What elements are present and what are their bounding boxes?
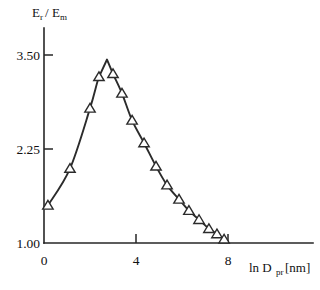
x-tick-label-4: 4 [133,253,140,268]
y-tick-label-350: 3.50 [16,48,40,63]
y-tick-label-225: 2.25 [16,142,40,157]
x-axis-title-subscript: pr [276,267,284,277]
data-point-marker [139,138,149,147]
chart-figure: 3.50 2.25 1.00 0 4 8 E r / E m ln D pr [… [0,0,320,290]
data-point-marker [162,180,172,189]
y-axis-title-numerator: E [32,5,40,20]
x-axis-title-lead: ln D [249,260,272,275]
data-point-marker [117,88,127,97]
y-axis-title-denominator: E [52,5,60,20]
data-point-marker [94,72,104,81]
y-tick-label-100: 1.00 [16,236,40,251]
x-axis-title: ln D pr [nm] [249,260,310,277]
series-line-er-em [48,60,228,242]
data-point-marker [127,115,137,124]
x-axis-title-unit: [nm] [285,260,310,275]
data-point-marker [108,69,118,78]
data-point-marker [65,164,75,173]
y-axis-title-denominator-subscript: m [60,12,67,22]
chart-plot-area: 3.50 2.25 1.00 0 4 8 E r / E m ln D pr [… [0,0,320,290]
series-markers [43,69,230,243]
y-axis-title: E r / E m [32,5,67,22]
x-tick-label-8: 8 [225,253,232,268]
y-axis-title-numerator-subscript: r [40,12,43,22]
data-point-marker [85,103,95,112]
x-tick-label-0: 0 [41,253,48,268]
data-point-marker [151,161,161,170]
y-tick-marks [44,55,53,149]
y-axis-title-slash: / [45,5,49,20]
